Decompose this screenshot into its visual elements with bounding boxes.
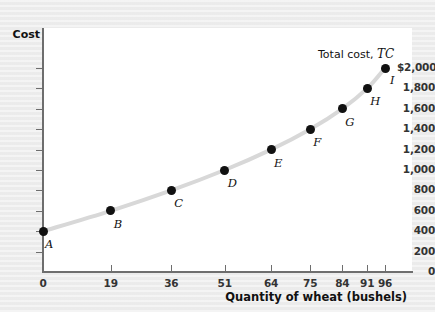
data-point-label-g: G <box>345 115 354 129</box>
data-point-h <box>363 84 372 93</box>
data-point-label-c: C <box>174 196 183 210</box>
data-point-label-b: B <box>114 217 122 231</box>
data-point-label-e: E <box>274 156 282 170</box>
data-point-e <box>267 145 276 154</box>
data-point-label-f: F <box>313 135 321 149</box>
curve-annotation-symbol: TC <box>377 47 394 61</box>
data-point-i <box>381 64 390 73</box>
curve-annotation-text: Total cost, <box>318 48 374 61</box>
data-point-a <box>39 227 48 236</box>
data-point-label-a: A <box>45 237 53 251</box>
data-point-label-i: I <box>390 73 395 87</box>
curve-path <box>43 68 385 231</box>
data-point-label-h: H <box>370 94 380 108</box>
data-point-f <box>306 125 315 134</box>
data-point-d <box>220 166 229 175</box>
data-point-c <box>167 186 176 195</box>
data-point-g <box>338 104 347 113</box>
curve-annotation: Total cost, TC <box>318 47 394 61</box>
data-point-label-d: D <box>228 176 237 190</box>
cost-curve-figure: Cost Quantity of wheat (bushels) 0200400… <box>0 0 435 312</box>
